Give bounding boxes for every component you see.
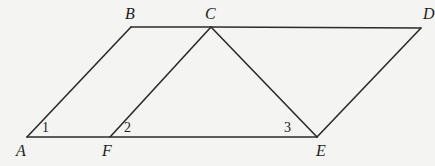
- vertex-label-e: E: [316, 143, 326, 159]
- segment-C-E: [211, 27, 317, 137]
- vertex-label-b: B: [125, 6, 135, 22]
- segment-C-D: [211, 27, 421, 28]
- vertex-label-c: C: [205, 6, 216, 22]
- angle-label-1: 1: [42, 121, 49, 135]
- segment-D-E: [317, 28, 421, 137]
- vertex-label-a: A: [16, 143, 26, 159]
- vertex-label-d: D: [423, 6, 435, 22]
- angle-label-2: 2: [124, 121, 131, 135]
- vertex-label-f: F: [102, 143, 112, 159]
- angle-label-3: 3: [284, 121, 291, 135]
